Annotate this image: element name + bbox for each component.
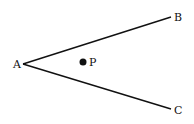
ray-ab [23, 17, 171, 64]
label-p: P [89, 56, 97, 69]
label-b: B [174, 11, 182, 24]
label-c: C [174, 104, 182, 117]
label-a: A [12, 58, 22, 71]
point-p-dot [80, 59, 87, 66]
ray-ac [23, 64, 171, 109]
angle-diagram: A B C P [0, 0, 194, 124]
